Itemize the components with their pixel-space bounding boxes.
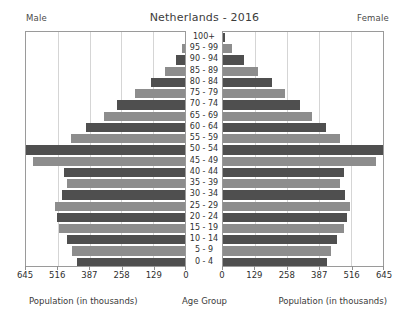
age-group-label: 45 - 49: [186, 155, 222, 166]
age-group-label: 25 - 29: [186, 200, 222, 211]
bar-row: [223, 122, 383, 133]
bar-row: [223, 257, 383, 267]
bar-row: [223, 88, 383, 99]
bar-female-90-94: [223, 55, 244, 64]
bar-row: [223, 245, 383, 256]
bar-row: [26, 111, 185, 122]
bar-row: [223, 223, 383, 234]
age-group-label: 95 - 99: [186, 42, 222, 53]
x-tick-label: 129: [146, 270, 162, 280]
age-group-label: 80 - 84: [186, 76, 222, 87]
bar-row: [26, 245, 185, 256]
bar-male-30-34: [62, 190, 185, 199]
bar-female-35-39: [223, 179, 340, 188]
bar-row: [223, 156, 383, 167]
bar-male-45-49: [33, 157, 185, 166]
bar-female-50-54: [223, 145, 383, 154]
bar-male-40-44: [64, 168, 185, 177]
bar-male-15-19: [59, 224, 185, 233]
bar-row: [26, 77, 185, 88]
bar-row: [223, 43, 383, 54]
bar-row: [26, 223, 185, 234]
bar-female-5-9: [223, 246, 331, 255]
x-tick-label: 516: [343, 270, 359, 280]
bar-female-95-99: [223, 44, 232, 53]
bar-row: [223, 99, 383, 110]
bar-row: [26, 144, 185, 155]
bar-male-60-64: [86, 123, 185, 132]
bar-row: [26, 133, 185, 144]
bar-row: [26, 54, 185, 65]
female-side-label: Female: [357, 13, 389, 23]
bar-female-60-64: [223, 123, 326, 132]
bar-female-75-79: [223, 89, 285, 98]
age-group-label: 15 - 19: [186, 222, 222, 233]
bar-row: [223, 212, 383, 223]
bar-female-25-29: [223, 202, 350, 211]
x-tick-label: 0: [219, 270, 224, 280]
bar-row: [223, 111, 383, 122]
bar-row: [26, 66, 185, 77]
bar-female-70-74: [223, 100, 300, 109]
bar-row: [26, 189, 185, 200]
age-group-label: 10 - 14: [186, 233, 222, 244]
bar-female-30-34: [223, 190, 345, 199]
age-group-axis: 100+95 - 9990 - 9485 - 8980 - 8475 - 797…: [186, 31, 222, 267]
bar-row: [26, 88, 185, 99]
male-bar-rows: [26, 32, 185, 266]
x-tick-label: 129: [246, 270, 262, 280]
x-tick-label: 387: [311, 270, 327, 280]
bar-male-80-84: [151, 78, 186, 87]
bar-row: [26, 167, 185, 178]
bar-male-55-59: [71, 134, 185, 143]
x-tick-mark: [319, 266, 320, 270]
bar-row: [223, 133, 383, 144]
bar-row: [26, 212, 185, 223]
female-axis-caption: Population (in thousands): [278, 296, 387, 306]
x-tick-mark: [57, 266, 58, 270]
bar-row: [26, 99, 185, 110]
age-group-label: 65 - 69: [186, 110, 222, 121]
age-group-label: 20 - 24: [186, 211, 222, 222]
x-tick-mark: [89, 266, 90, 270]
bar-male-25-29: [55, 202, 185, 211]
age-group-label: 40 - 44: [186, 166, 222, 177]
x-tick-mark: [154, 266, 155, 270]
bar-row: [26, 234, 185, 245]
x-tick-label: 258: [279, 270, 295, 280]
x-tick-label: 387: [81, 270, 97, 280]
bar-row: [26, 257, 185, 267]
x-tick-label: 0: [183, 270, 188, 280]
bar-row: [26, 32, 185, 43]
bar-female-55-59: [223, 134, 340, 143]
bar-male-20-24: [57, 213, 185, 222]
bar-row: [223, 77, 383, 88]
bar-female-0-4: [223, 258, 327, 267]
bar-male-95-99: [182, 44, 185, 53]
bar-row: [223, 234, 383, 245]
bar-male-0-4: [77, 258, 185, 267]
age-group-label: 100+: [186, 31, 222, 42]
bar-female-85-89: [223, 67, 258, 76]
bar-row: [223, 189, 383, 200]
age-group-label: 35 - 39: [186, 177, 222, 188]
age-group-label: 55 - 59: [186, 132, 222, 143]
bar-row: [26, 201, 185, 212]
x-tick-mark: [122, 266, 123, 270]
x-tick-mark: [25, 266, 26, 270]
chart-title: Netherlands - 2016: [0, 11, 409, 24]
x-tick-mark: [352, 266, 353, 270]
bar-female-100+: [223, 33, 225, 42]
female-plot-panel: [222, 31, 384, 267]
x-tick-label: 516: [49, 270, 65, 280]
x-tick-mark: [254, 266, 255, 270]
bar-male-85-89: [165, 67, 185, 76]
bar-male-75-79: [135, 89, 185, 98]
x-tick-mark: [383, 266, 384, 270]
x-tick-mark: [185, 266, 186, 270]
bar-row: [223, 201, 383, 212]
age-group-label: 90 - 94: [186, 53, 222, 64]
bar-female-15-19: [223, 224, 344, 233]
bar-male-5-9: [72, 246, 185, 255]
x-tick-mark: [287, 266, 288, 270]
